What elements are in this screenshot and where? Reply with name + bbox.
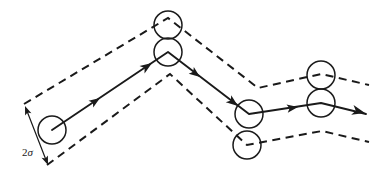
corridor-width-dimension-arrow-top xyxy=(22,105,32,116)
corridor-width-label: 2σ xyxy=(22,146,34,158)
lower-bound-dashed-line xyxy=(47,74,369,165)
right-upper-bound-disk-circle xyxy=(307,61,335,89)
mean-path-solid-line xyxy=(52,52,366,130)
figure-canvas: 2σ xyxy=(0,0,370,177)
corridor-width-symbol: σ xyxy=(28,146,34,158)
corridor-width-dimension-arrow-bottom xyxy=(42,155,52,166)
random-walk-corridor-diagram: 2σ xyxy=(0,0,370,177)
segment-1-end-arrowhead xyxy=(140,59,155,73)
